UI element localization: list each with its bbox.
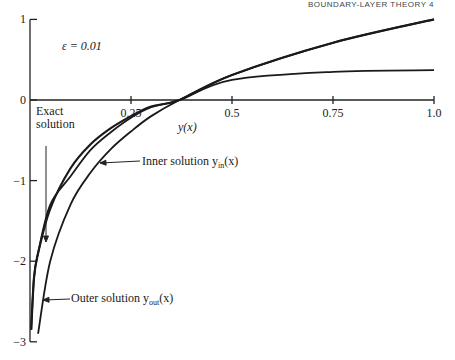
annotation-arrows	[43, 146, 140, 302]
curve-outer	[38, 19, 434, 333]
outer-solution-label: Outer solution yout(x)	[71, 291, 173, 307]
x-tick-label: 1.0	[427, 106, 442, 120]
inner-solution-label: Inner solution yin(x)	[142, 154, 238, 170]
x-tick-label: 0.5	[225, 106, 240, 120]
curve-exact	[31, 19, 434, 329]
chart-canvas: 0.250.50.751.010−1−2−3	[0, 0, 455, 360]
y-tick-label: −1	[13, 174, 26, 188]
x-tick-label: 0.25	[121, 106, 142, 120]
y-tick-label: −3	[13, 335, 26, 349]
curve-label: y(x)	[178, 120, 197, 135]
epsilon-label: ε = 0.01	[62, 39, 102, 54]
exact-label-line2: solution	[36, 117, 75, 132]
exact-solution-arrow-head	[44, 236, 49, 242]
y-tick-label: 1	[20, 12, 26, 26]
y-tick-label: −2	[13, 254, 26, 268]
y-tick-label: 0	[20, 93, 26, 107]
curves	[31, 19, 434, 333]
x-tick-label: 0.75	[323, 106, 344, 120]
